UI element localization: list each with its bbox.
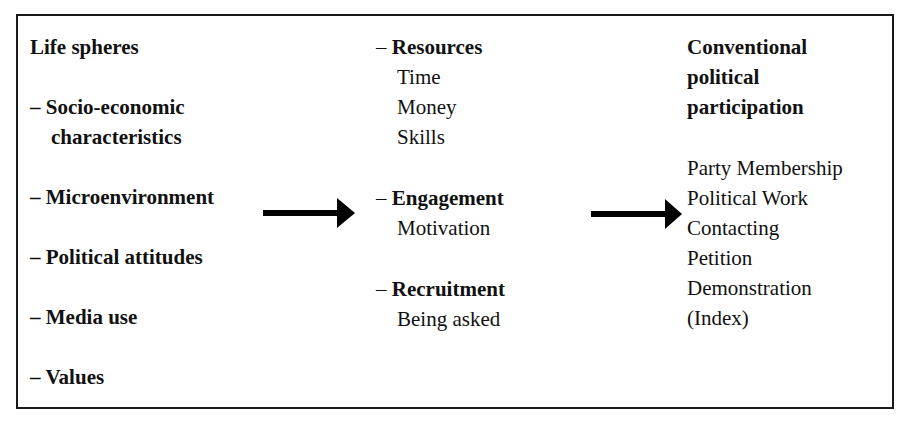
life-spheres-column: Life spheres – Socio-economic characteri… [30,32,214,392]
resource-money: Money [376,92,505,122]
dash: – [376,35,387,59]
outcome-party-membership: Party Membership [687,153,843,183]
mechanisms-column: – Resources Time Money Skills – Engageme… [376,32,505,334]
outcome-petition: Petition [687,243,843,273]
life-spheres-title: Life spheres [30,32,214,62]
life-sphere-values: – Values [30,362,214,392]
outcome-contacting: Contacting [687,213,843,243]
conventional-participation-column: Conventional political participation Par… [687,32,843,333]
right-arrow-icon [262,197,356,229]
outcome-demonstration: Demonstration [687,273,843,303]
outcome-title-line-3: participation [687,92,843,122]
outcome-index: (Index) [687,303,843,333]
engagement-motivation: Motivation [376,213,505,243]
dash: – [376,186,387,210]
dash: – [30,95,41,119]
dash: – [30,185,41,209]
recruitment-being-asked: Being asked [376,304,505,334]
outcome-political-work: Political Work [687,183,843,213]
outcome-title-line-1: Conventional [687,32,843,62]
right-arrow-icon [590,198,684,230]
recruitment-heading: – Recruitment [376,274,505,304]
engagement-heading: – Engagement [376,183,505,213]
dash: – [30,305,41,329]
dash: – [376,277,387,301]
resource-skills: Skills [376,122,505,152]
life-sphere-microenvironment: – Microenvironment [30,182,214,212]
life-sphere-socio-economic: – Socio-economic [30,92,214,122]
dash: – [30,365,41,389]
dash: – [30,245,41,269]
resources-heading: – Resources [376,32,505,62]
outcome-title-line-2: political [687,62,843,92]
life-sphere-media-use: – Media use [30,302,214,332]
life-sphere-political-attitudes: – Political attitudes [30,242,214,272]
resource-time: Time [376,62,505,92]
life-sphere-socio-economic-cont: characteristics [30,122,214,152]
